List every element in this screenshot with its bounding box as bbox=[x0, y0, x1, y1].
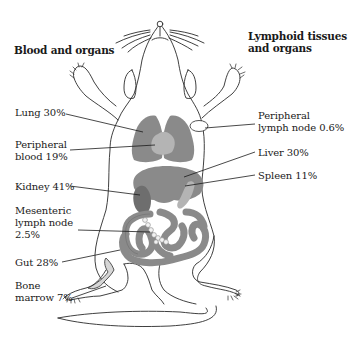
tail-base bbox=[124, 263, 164, 304]
bone-marrow bbox=[88, 258, 114, 289]
heading-lymphoid-line1: Lymphoid tissues bbox=[248, 30, 347, 42]
nose bbox=[157, 21, 163, 27]
forelimb-left bbox=[73, 66, 118, 120]
label-lung: Lung 30% bbox=[15, 107, 66, 119]
label-peripheral-blood-line1: Peripheral bbox=[15, 139, 68, 151]
heading-lymphoid-line2: and organs bbox=[248, 42, 347, 54]
ear-right bbox=[184, 70, 196, 99]
label-bone-marrow-line1: Bone bbox=[15, 280, 73, 292]
label-mesenteric-lymph-node: Mesenteric lymph node 2.5% bbox=[15, 205, 73, 241]
label-gut: Gut 28% bbox=[15, 257, 58, 269]
heading-blood-and-organs: Blood and organs bbox=[14, 44, 114, 56]
label-bone-marrow: Bone marrow 7% bbox=[15, 280, 73, 304]
heading-lymphoid-tissues: Lymphoid tissues and organs bbox=[248, 30, 347, 54]
label-mesenteric-line1: Mesenteric bbox=[15, 205, 73, 217]
label-peripheral-blood-line2: blood 19% bbox=[15, 151, 68, 163]
label-peripheral-ln-line1: Peripheral bbox=[258, 110, 344, 122]
forelimb-right bbox=[202, 68, 240, 118]
label-peripheral-blood: Peripheral blood 19% bbox=[15, 139, 68, 163]
peripheral-lymph-node bbox=[190, 121, 208, 132]
label-peripheral-lymph-node: Peripheral lymph node 0.6% bbox=[258, 110, 344, 134]
label-spleen: Spleen 11% bbox=[258, 170, 317, 182]
label-bone-marrow-line2: marrow 7% bbox=[15, 292, 73, 304]
tail bbox=[58, 306, 217, 327]
label-mesenteric-line2: lymph node bbox=[15, 217, 73, 229]
gut bbox=[123, 212, 206, 263]
label-peripheral-ln-line2: lymph node 0.6% bbox=[258, 122, 344, 134]
label-liver: Liver 30% bbox=[258, 147, 309, 159]
label-kidney: Kidney 41% bbox=[15, 181, 74, 193]
label-mesenteric-line3: 2.5% bbox=[15, 229, 73, 241]
